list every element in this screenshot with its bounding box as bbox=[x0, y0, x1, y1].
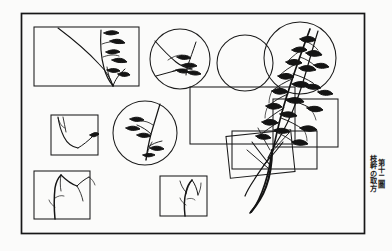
figure-caption: 第十二圖 枝幹の取方 bbox=[367, 155, 385, 192]
figure-illustration bbox=[0, 0, 392, 251]
plate-background bbox=[0, 0, 392, 251]
figure-plate: 第十二圖 枝幹の取方 bbox=[0, 0, 392, 251]
figure-subtitle: 枝幹の取方 bbox=[370, 155, 378, 192]
figure-number: 第十二圖 bbox=[377, 155, 385, 192]
